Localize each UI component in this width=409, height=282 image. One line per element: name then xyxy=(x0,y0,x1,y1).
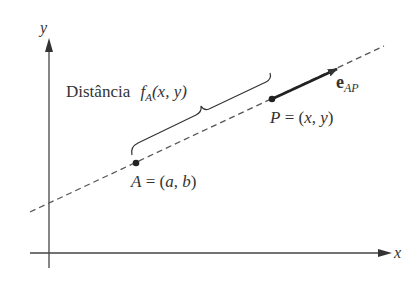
y-axis xyxy=(45,38,53,268)
point-a-label: A = (a, b) xyxy=(130,172,196,191)
x-axis-label: x xyxy=(393,244,401,261)
point-a-dot xyxy=(133,160,140,167)
x-axis-arrow-icon xyxy=(378,249,392,257)
point-p-dot xyxy=(269,96,276,103)
y-axis-label: y xyxy=(38,19,48,37)
distance-label: Distância fA(x, y) xyxy=(66,82,187,103)
vector-label: eAP xyxy=(336,72,359,95)
y-axis-arrow-icon xyxy=(45,38,53,52)
point-p-label: P = (x, y) xyxy=(269,108,333,127)
vector-e-ap xyxy=(272,69,337,99)
diagram-canvas: y x Distância fA(x, y) A = (a, b) P = (x… xyxy=(0,0,409,282)
x-axis xyxy=(30,249,392,257)
